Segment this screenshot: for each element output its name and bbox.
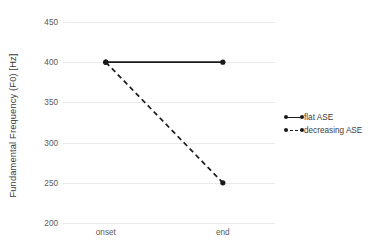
y-axis-tick-label: 350 [24,98,58,107]
legend-label: decreasing ASE [304,126,362,136]
legend-entry[interactable]: decreasing ASE [284,125,373,136]
x-axis-tick-labels: onsetend [63,228,275,242]
data-point-marker [103,60,108,65]
legend-entry[interactable]: flat ASE [284,112,373,123]
legend-label: flat ASE [304,113,333,123]
y-axis-tick-label: 450 [24,18,58,27]
chart-figure: Fundamental Frequency (F0) [Hz] 20025030… [0,0,373,251]
legend-swatch [284,126,304,135]
x-axis-tick-label: onset [96,228,116,237]
x-axis-tick-label: end [216,228,230,237]
legend-marker-dot [284,115,288,119]
series-layer [63,22,275,223]
y-axis-tick-labels: 200250300350400450 [18,22,58,223]
gridline [63,223,275,224]
legend-swatch [284,113,304,122]
legend-marker-dot [284,128,288,132]
series-line [106,62,223,183]
y-axis-tick-label: 300 [24,138,58,147]
y-axis-tick-label: 200 [24,219,58,228]
chart-legend: flat ASEdecreasing ASE [284,112,373,138]
data-point-marker [220,180,225,185]
y-axis-tick-label: 250 [24,178,58,187]
legend-marker-dot [300,115,304,119]
legend-marker-dot [300,128,304,132]
data-point-marker [220,60,225,65]
plot-area [63,22,275,223]
y-axis-tick-label: 400 [24,58,58,67]
